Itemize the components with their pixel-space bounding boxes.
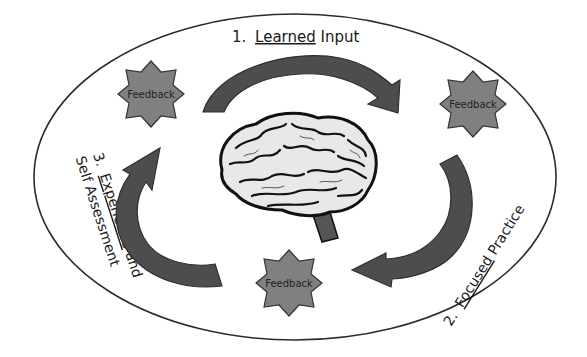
stage-1-rest: Input [316,28,360,46]
feedback-star-top-right: Feedback [440,71,506,137]
feedback-star-bottom: Feedback [256,250,322,316]
stage-1-emphasis: Learned [255,28,316,46]
feedback-star-top-left: Feedback [118,61,184,127]
stage-2-rest: Practice [482,202,528,262]
learning-cycle-diagram: 1. Learned Input 2. Focused Practice 3. … [0,0,587,357]
feedback-label: Feedback [265,278,313,289]
stage-1-number: 1. [232,28,246,46]
stage-3-number: 3. [90,150,109,168]
feedback-label: Feedback [127,89,175,100]
arrow-top [203,56,400,113]
feedback-label: Feedback [449,99,497,110]
brain-icon [221,113,377,242]
stage-2-emphasis: Focused [452,253,496,310]
stage-1-label: 1. Learned Input [232,28,360,46]
